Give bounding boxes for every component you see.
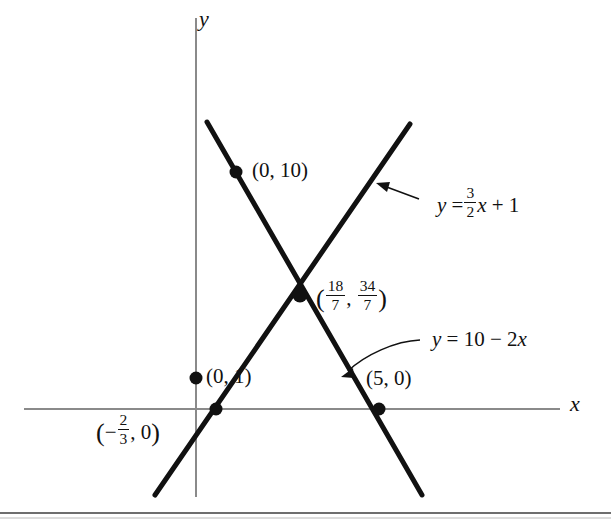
fraction-numerator: 34: [358, 278, 378, 295]
equation-label-falling-line: y = 10 − 2x: [432, 329, 527, 350]
comma-separator: ,: [346, 286, 357, 310]
fraction-34-over-7: 347: [358, 278, 378, 313]
fraction-denominator: 7: [326, 295, 346, 313]
fraction-numerator: 3: [464, 185, 476, 202]
y-axis-label: y: [199, 8, 209, 30]
point-dot-0-1: [190, 372, 203, 385]
equation-lhs: y: [437, 193, 446, 217]
minus-sign: −: [490, 327, 502, 351]
minus-sign: −: [105, 420, 117, 444]
equation-constant: 1: [509, 193, 520, 217]
point-dot-0-10: [230, 166, 243, 179]
leader-arrow-rising: [376, 182, 419, 199]
equation-variable: x: [518, 327, 527, 351]
comma-separator: ,: [130, 420, 141, 444]
point-label-intersection: (187, 347): [316, 280, 387, 315]
paren-open: (: [316, 284, 325, 313]
x-axis-label: x: [570, 393, 580, 415]
paren-close: ): [378, 284, 387, 313]
fraction-18-over-7: 187: [326, 278, 346, 313]
equation-label-rising-line: y =32x + 1: [437, 187, 519, 222]
equation-constant: 10: [464, 327, 485, 351]
plus-sign: +: [492, 193, 504, 217]
graph-canvas: [0, 0, 611, 529]
falling-line: [207, 122, 422, 495]
fraction-denominator: 2: [464, 202, 476, 220]
fraction-denominator: 7: [358, 295, 378, 313]
point-label-0-10: (0, 10): [252, 160, 308, 181]
fraction-3-over-2: 32: [464, 185, 476, 220]
equals-sign: =: [447, 327, 459, 351]
point-label-neg-two-thirds-0: (−23, 0): [96, 414, 160, 449]
paren-open: (: [96, 418, 105, 447]
fraction-denominator: 3: [118, 429, 130, 447]
equation-lhs: y: [432, 327, 441, 351]
point-dot-intersection: [293, 288, 308, 303]
point-label-0-1: (0, 1): [206, 366, 252, 387]
graph-figure: y x (0, 10) (0, 1) (5, 0) (187, 347) (−2…: [0, 0, 611, 529]
equation-coefficient: 2: [507, 327, 518, 351]
zero-value: 0: [141, 420, 152, 444]
point-label-5-0: (5, 0): [366, 368, 412, 389]
point-dot-neg-two-thirds-0: [210, 403, 223, 416]
equals-sign: =: [452, 193, 464, 217]
fraction-2-over-3: 23: [118, 412, 130, 447]
point-dot-5-0: [373, 403, 386, 416]
paren-close: ): [151, 418, 160, 447]
fraction-numerator: 2: [118, 412, 130, 429]
equation-variable: x: [477, 193, 486, 217]
fraction-numerator: 18: [326, 278, 346, 295]
